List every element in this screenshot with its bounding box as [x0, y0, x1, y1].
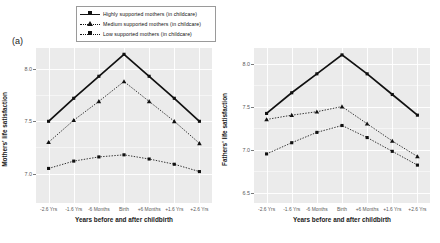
series-marker	[390, 139, 395, 143]
y-axis-title-b: Fathers' life satisfaction	[221, 52, 228, 207]
panel-b: (b) Highly supportive fathers Medium sup…	[220, 0, 440, 243]
series-marker	[265, 152, 268, 155]
legend-panel-a: Highly supported mothers (in childcare) …	[76, 6, 216, 42]
legend-item-label: Medium supported mothers (in childcare)	[103, 21, 201, 27]
series-marker	[47, 167, 50, 170]
legend-item-label: Low supported mothers (in childcare)	[103, 31, 192, 37]
series-marker	[315, 131, 318, 134]
x-axis-tick-label: +6 Months	[356, 207, 379, 212]
series-marker	[290, 141, 293, 144]
x-axis-tick-label: -6 Months	[306, 207, 328, 212]
series-marker	[122, 53, 125, 56]
panel-a-tag: (a)	[12, 36, 23, 46]
series-marker	[122, 153, 125, 156]
series-line	[49, 82, 200, 144]
series-marker	[47, 120, 50, 123]
y-axis-tick-label: 7.0	[25, 171, 37, 177]
x-axis-tick-label: +2.6 Yrs	[408, 207, 426, 212]
series-marker	[173, 97, 176, 100]
series-marker	[416, 114, 419, 117]
series-marker	[315, 72, 318, 75]
series-marker	[365, 121, 370, 125]
series-marker	[198, 170, 201, 173]
series-marker	[97, 75, 100, 78]
series-marker	[148, 75, 151, 78]
series-marker	[391, 93, 394, 96]
series-marker	[71, 118, 76, 122]
x-axis-title-a: Years before and after childbirth	[36, 216, 212, 223]
x-axis-title-b: Years before and after childbirth	[254, 216, 430, 223]
series-marker	[173, 163, 176, 166]
series-layer-b	[254, 48, 430, 203]
x-axis-tick-label: -1.6 Yrs	[65, 207, 82, 212]
series-marker	[122, 79, 127, 83]
panel-a: (a) Highly supported mothers (in childca…	[0, 0, 220, 243]
legend-key-dotted-triangle-icon	[80, 20, 100, 28]
legend-key-dotted-square-icon	[80, 30, 100, 38]
legend-item: Highly supported mothers (in childcare)	[80, 9, 211, 19]
series-marker	[72, 97, 75, 100]
y-axis-title-a: Mothers' life satisfaction	[1, 52, 8, 207]
series-marker	[148, 157, 151, 160]
series-marker	[340, 104, 345, 108]
series-marker	[315, 109, 320, 113]
series-line	[267, 107, 418, 157]
series-line	[49, 54, 200, 121]
x-axis-tick-label: +1.6 Yrs	[165, 207, 183, 212]
series-marker	[46, 140, 51, 144]
series-line	[267, 126, 418, 166]
series-marker	[172, 119, 177, 123]
series-marker	[415, 154, 420, 158]
y-axis-tick-label: 7.5	[243, 104, 255, 110]
series-marker	[197, 141, 202, 145]
legend-item: Medium supported mothers (in childcare)	[80, 19, 211, 29]
figure-container: (a) Highly supported mothers (in childca…	[0, 0, 440, 243]
series-marker	[289, 113, 294, 117]
series-marker	[340, 53, 343, 56]
series-marker	[72, 160, 75, 163]
series-marker	[264, 117, 269, 121]
y-axis-tick-label: 8.0	[243, 61, 255, 67]
x-axis-tick-label: Birth	[119, 207, 129, 212]
series-marker	[340, 124, 343, 127]
y-axis-tick-label: 7.5	[25, 118, 37, 124]
series-marker	[97, 99, 102, 103]
series-marker	[391, 150, 394, 153]
x-axis-tick-label: +6 Months	[138, 207, 161, 212]
legend-key-solid-square-icon	[80, 10, 100, 18]
y-axis-tick-label: 6.5	[243, 190, 255, 196]
y-axis-tick-label: 8.0	[25, 66, 37, 72]
series-marker	[416, 164, 419, 167]
x-axis-tick-label: -1.6 Yrs	[283, 207, 300, 212]
x-axis-tick-label: +1.6 Yrs	[383, 207, 401, 212]
series-marker	[265, 112, 268, 115]
x-axis-tick-label: Birth	[337, 207, 347, 212]
series-marker	[290, 91, 293, 94]
y-axis-tick-label: 7.0	[243, 147, 255, 153]
legend-item: Low supported mothers (in childcare)	[80, 29, 211, 39]
plot-area-b: 8.07.57.06.5 -2.6 Yrs-1.6 Yrs-6 MonthsBi…	[254, 48, 430, 203]
series-line	[49, 155, 200, 172]
legend-item-label: Highly supported mothers (in childcare)	[103, 11, 197, 17]
x-axis-tick-label: +2.6 Yrs	[190, 207, 208, 212]
series-marker	[366, 72, 369, 75]
x-axis-tick-label: -6 Months	[88, 207, 110, 212]
x-axis-tick-label: -2.6 Yrs	[40, 207, 57, 212]
series-marker	[198, 120, 201, 123]
x-axis-tick-label: -2.6 Yrs	[258, 207, 275, 212]
plot-area-a: 8.07.57.0 -2.6 Yrs-1.6 Yrs-6 MonthsBirth…	[36, 48, 212, 203]
series-layer-a	[36, 48, 212, 203]
series-marker	[366, 136, 369, 139]
series-marker	[97, 155, 100, 158]
